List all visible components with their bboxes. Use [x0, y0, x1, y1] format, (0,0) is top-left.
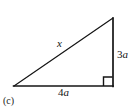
figure-caption: (c)	[3, 96, 14, 106]
vertical-leg-label: 3a	[117, 49, 128, 60]
hypotenuse-line	[14, 18, 113, 86]
vertical-leg-variable: a	[123, 48, 129, 60]
horizontal-leg-label: 4a	[58, 87, 69, 98]
figure-panel: x 3a 4a (c)	[0, 0, 136, 112]
hypotenuse-label: x	[57, 38, 62, 49]
right-angle-marker-icon	[104, 77, 113, 86]
horizontal-leg-variable: a	[64, 86, 70, 98]
